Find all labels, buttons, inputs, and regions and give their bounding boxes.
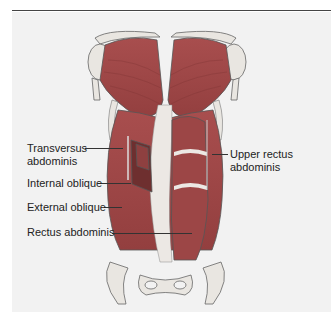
leader-rectus: [112, 233, 192, 234]
label-internal-oblique: Internal oblique: [27, 177, 102, 190]
leader-upper-rectus: [212, 154, 228, 155]
label-rectus-abdominis: Rectus abdominis: [27, 226, 114, 239]
leader-transversus: [85, 148, 123, 149]
label-external-oblique: External oblique: [27, 201, 106, 214]
left-pectoral: [100, 38, 163, 118]
leader-internal-oblique: [98, 183, 131, 184]
label-upper-rectus-abdominis-line2: abdominis: [230, 161, 280, 174]
leader-external-oblique: [104, 207, 122, 208]
label-upper-rectus-abdominis-line1: Upper rectus: [230, 148, 293, 161]
right-pectoral: [168, 38, 231, 118]
label-transversus-abdominis-line1: Transversus: [27, 142, 87, 155]
label-transversus-abdominis-line2: abdominis: [27, 155, 77, 168]
pelvis: [106, 262, 224, 304]
